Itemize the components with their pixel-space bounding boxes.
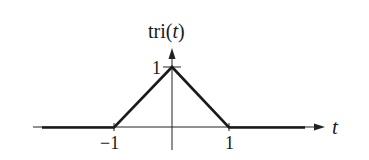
plot-title: tri(t) bbox=[148, 20, 185, 43]
tri-function-plot: tri(t) 1 −1 1 t bbox=[0, 0, 369, 160]
tri-curve bbox=[42, 67, 305, 128]
y-axis-arrow-icon bbox=[169, 48, 176, 59]
x-tick-label-pos1: 1 bbox=[225, 133, 234, 153]
y-tick-label-1: 1 bbox=[152, 58, 161, 78]
x-axis-label: t bbox=[332, 115, 339, 139]
x-axis-arrow-icon bbox=[314, 124, 325, 131]
x-tick-label-neg1: −1 bbox=[100, 133, 119, 153]
